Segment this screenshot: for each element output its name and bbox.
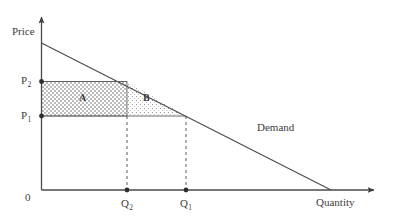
demand-diagram-figure: Price Quantity 0 P2 P1 Q2 Q1 A B Demand [0,0,394,223]
quantity-tick-q2-sub: 2 [129,203,133,212]
demand-curve-label: Demand [257,122,294,133]
region-b-shape [127,82,186,117]
x-axis-label: Quantity [316,197,355,208]
quantity-tick-q1: Q1 [180,198,192,209]
price-tick-p2-sub: 2 [27,80,31,89]
price-tick-p1-sub: 1 [27,115,31,124]
price-tick-p2: P2 [21,75,31,86]
quantity-tick-q1-sub: 1 [188,203,192,212]
quantity-tick-q2: Q2 [121,198,133,209]
y-axis-label: Price [12,26,35,37]
quantity-tick-q2-base: Q [121,197,129,209]
diagram-canvas [0,0,394,223]
point-q2 [125,188,130,193]
point-p1 [39,114,44,119]
point-q1 [184,188,189,193]
quantity-tick-q1-base: Q [180,197,188,209]
origin-label: 0 [25,192,31,203]
region-b-label: B [143,93,150,103]
point-p2 [39,79,44,84]
region-a-label: A [79,93,86,103]
price-tick-p1: P1 [21,110,31,121]
